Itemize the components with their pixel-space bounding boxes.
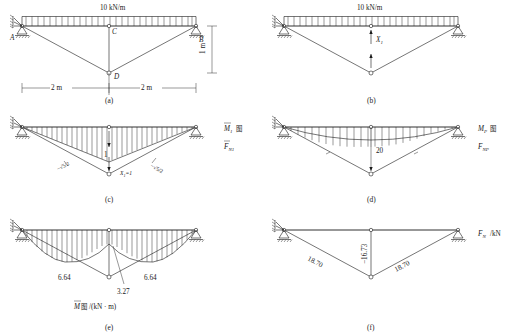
svg-text:FN1: FN1 <box>223 143 234 152</box>
caption-a: (a) <box>105 96 114 105</box>
node-label-d: D <box>113 73 120 81</box>
caption-d: (d) <box>367 195 376 204</box>
hinge-c <box>107 24 110 27</box>
caption-b: (b) <box>367 96 376 105</box>
member-ad-b <box>284 26 371 73</box>
node-label-c: C <box>112 28 117 36</box>
hinge-c-b <box>369 24 372 27</box>
svg-text:M1: M1 <box>223 125 233 134</box>
diagram-label-m1-c: M1 图 <box>223 123 242 134</box>
svg-text:18.70: 18.70 <box>393 259 411 274</box>
svg-text:−16.73: −16.73 <box>361 243 369 264</box>
diagram-label-fnp-d: FNP <box>477 143 489 152</box>
svg-text:FNP: FNP <box>477 143 489 152</box>
hinge-c-f <box>369 228 372 231</box>
svg-text:M: M <box>73 303 81 311</box>
svg-text:FN: FN <box>477 230 486 239</box>
axial-label-left-c: −√5/2 <box>56 160 71 172</box>
caption-c: (c) <box>105 195 114 204</box>
udl-label-a: 10 kN/m <box>100 4 126 12</box>
redundant-force-label-b: X1 <box>375 36 383 45</box>
moment-value-mid-e: 3.27 <box>117 288 130 296</box>
panel-a-svg: 10 kN/m <box>0 0 255 105</box>
moment-unit-left-c <box>22 127 109 162</box>
diagram-label-mp-d: MP 图 <box>477 125 496 134</box>
panel-a: 10 kN/m <box>0 0 255 105</box>
panel-f: 18.70 18.70 −16.73 FN /kN <box>262 212 521 335</box>
axial-tick-right-d <box>414 152 418 154</box>
member-db-f <box>371 230 458 277</box>
moment-value-marker-d: 20 <box>369 127 383 171</box>
member-ad-f <box>284 230 371 277</box>
svg-text:−√5/2: −√5/2 <box>150 163 165 175</box>
axial-tick-left-d <box>326 152 330 154</box>
panel-e: 6.64 6.64 3.27 M 图 /(kN · m) (e) <box>0 212 255 335</box>
axial-tick-right-c <box>152 158 156 163</box>
axial-label-vertical-f: −16.73 <box>361 243 369 264</box>
moment-value-right-e: 6.64 <box>144 274 157 282</box>
dimension-left-label-a: 2 m <box>51 84 62 92</box>
support-left-f <box>272 219 292 242</box>
hinge-d-d <box>369 172 373 176</box>
member-db-b <box>371 26 458 73</box>
member-db-a <box>109 26 196 73</box>
panel-d-svg: 20 MP 图 FNP <box>262 105 521 210</box>
svg-text:MP: MP <box>477 125 487 134</box>
unit-force-arrows-c <box>107 131 110 171</box>
diagram-label-m-e: M 图 /(kN · m) <box>73 301 117 311</box>
svg-text:/(kN · m): /(kN · m) <box>89 303 117 311</box>
panel-b: 10 kN/m <box>262 0 521 105</box>
moment-value-label-d: 20 <box>376 147 384 155</box>
member-ad-e <box>22 230 109 277</box>
chord-value-label-c: 1 <box>104 151 108 159</box>
hinge-d-b <box>369 71 373 75</box>
moment-value-left-e: 6.64 <box>58 274 71 282</box>
leader-line-mid-e <box>113 246 124 284</box>
axial-label-right-f: 18.70 <box>393 259 411 274</box>
axial-label-left-f: 18.70 <box>306 255 324 270</box>
svg-text:图: 图 <box>236 125 242 133</box>
dimension-right-label-a: 2 m <box>141 84 152 92</box>
support-left-d <box>272 116 292 139</box>
member-ad-a <box>22 26 109 73</box>
hinge-c-c <box>107 125 110 128</box>
dimension-height-a: 1 m <box>199 26 217 73</box>
panel-d: 20 MP 图 FNP <box>262 105 521 210</box>
member-ad-d <box>284 127 371 174</box>
diagram-label-fn-f: FN /kN <box>477 230 502 239</box>
udl-label-b: 10 kN/m <box>357 4 383 12</box>
dimension-span-a: 2 m 2 m <box>22 73 196 95</box>
panel-c-svg: 1 X1=1 −√5/2 −√5/2 <box>0 105 255 210</box>
svg-text:图: 图 <box>490 125 496 133</box>
svg-text:图: 图 <box>81 303 87 311</box>
dimension-height-label-a: 1 m <box>199 43 207 54</box>
panel-e-svg: 6.64 6.64 3.27 M 图 /(kN · m) (e) <box>0 212 255 335</box>
node-label-a: A <box>9 34 15 42</box>
unit-force-label-c: X1=1 <box>119 170 132 178</box>
hinge-d-e <box>107 275 111 279</box>
panel-f-svg: 18.70 18.70 −16.73 FN /kN <box>262 212 521 335</box>
node-label-b: B <box>199 36 204 44</box>
hinge-d-f <box>369 275 373 279</box>
support-left-b <box>272 15 292 38</box>
panel-b-svg: 10 kN/m <box>262 0 521 105</box>
svg-text:18.70: 18.70 <box>306 255 324 270</box>
axial-label-right-c: −√5/2 <box>150 163 165 175</box>
caption-f: (f) <box>367 323 375 332</box>
hinge-d-c <box>107 172 111 176</box>
member-db-d <box>371 127 458 174</box>
hinge-c-e <box>107 228 110 231</box>
caption-e: (e) <box>105 323 114 332</box>
svg-text:/kN: /kN <box>490 230 502 238</box>
redundant-force-arrows-b <box>369 30 372 68</box>
diagram-label-fn1-c: FN1 <box>223 141 234 152</box>
svg-text:−√5/2: −√5/2 <box>56 160 71 172</box>
panel-c: 1 X1=1 −√5/2 −√5/2 <box>0 105 255 210</box>
